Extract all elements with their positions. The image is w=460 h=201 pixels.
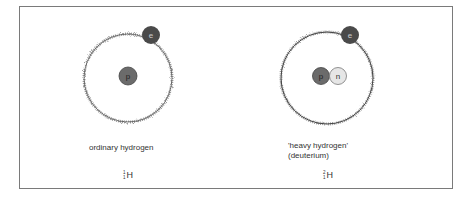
- proton: p: [313, 68, 330, 85]
- element-symbol: H: [327, 170, 334, 180]
- atomic-number: 1: [123, 176, 126, 181]
- neutron: n: [330, 68, 347, 85]
- isotope-numbers: 1 1: [123, 171, 126, 180]
- isotope-numbers: 2 1: [323, 171, 326, 180]
- label-line: ordinary hydrogen: [89, 143, 153, 152]
- electron-label: e: [348, 31, 353, 40]
- ordinary-hydrogen-atom: e p: [84, 26, 172, 122]
- isotope-symbol-h1: 1 1 H: [123, 170, 133, 180]
- atomic-number: 1: [323, 176, 326, 181]
- proton: p: [119, 67, 137, 85]
- deuterium-atom: e p n: [281, 26, 373, 124]
- label-line: 'heavy hydrogen': [288, 141, 348, 151]
- isotope-symbol-h2: 2 1 H: [323, 170, 333, 180]
- atom-diagrams: e p e p n: [0, 0, 460, 201]
- label-line: (deuterium): [288, 151, 348, 161]
- proton-label: p: [126, 72, 131, 81]
- neutron-label: n: [336, 72, 340, 81]
- electron: e: [142, 26, 160, 44]
- element-symbol: H: [127, 170, 134, 180]
- electron-label: e: [149, 31, 154, 40]
- electron: e: [341, 26, 359, 44]
- proton-label: p: [319, 72, 324, 81]
- ordinary-hydrogen-label: ordinary hydrogen: [89, 143, 153, 153]
- deuterium-label: 'heavy hydrogen' (deuterium): [288, 141, 348, 161]
